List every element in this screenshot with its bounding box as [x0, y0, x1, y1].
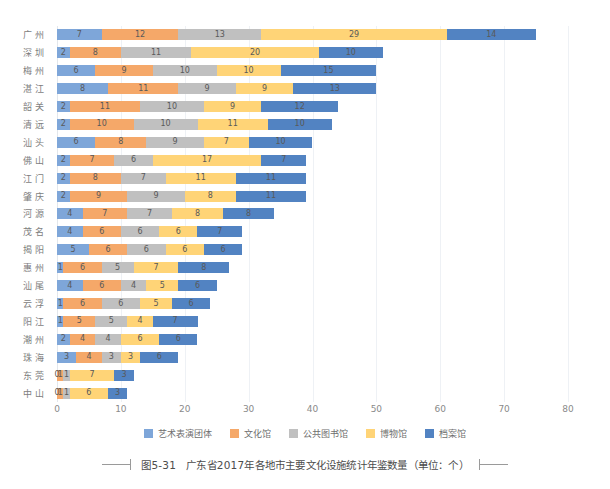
legend-item[interactable]: 文化馆 [230, 427, 271, 440]
bar-value-label: 7 [141, 174, 146, 182]
bar-value-label: 6 [137, 228, 142, 236]
bar-value-label: 10 [244, 67, 254, 75]
bar-segment: 4 [57, 226, 83, 237]
stacked-bar: 01163 [57, 388, 127, 399]
bar-segment: 10 [268, 119, 332, 130]
bar-row: 21110912 [57, 98, 568, 116]
bar-value-label: 7 [102, 210, 107, 218]
bar-segment: 10 [140, 101, 204, 112]
bar-segment: 1 [63, 370, 69, 381]
bar-value-label: 9 [122, 67, 127, 75]
x-axis-tick-label: 50 [371, 404, 382, 414]
bar-value-label: 4 [67, 228, 72, 236]
bar-segment: 8 [95, 137, 146, 148]
stacked-bar: 689710 [57, 137, 312, 148]
bar-value-label: 3 [121, 371, 126, 379]
bar-segment: 3 [114, 370, 133, 381]
bar-segment: 6 [204, 244, 242, 255]
bar-value-label: 12 [135, 31, 145, 39]
bar-segment: 10 [249, 137, 313, 148]
legend-label: 文化馆 [244, 427, 271, 440]
bar-value-label: 6 [74, 67, 79, 75]
bar-segment: 5 [146, 280, 178, 291]
bar-segment: 6 [127, 244, 165, 255]
stacked-bar: 16656 [57, 298, 210, 309]
bar-row: 46456 [57, 277, 568, 295]
bar-value-label: 6 [106, 246, 111, 254]
bar-value-label: 6 [131, 156, 136, 164]
bar-value-label: 10 [275, 138, 285, 146]
bar-segment: 7 [70, 155, 115, 166]
bar-segment: 9 [127, 191, 184, 202]
legend-item[interactable]: 博物馆 [366, 427, 407, 440]
bar-value-label: 7 [153, 264, 158, 272]
bar-value-label: 7 [90, 371, 95, 379]
bar-segment: 6 [63, 262, 101, 273]
bar-value-label: 4 [67, 282, 72, 290]
x-axis-tick-label: 70 [498, 404, 509, 414]
bar-value-label: 7 [224, 138, 229, 146]
bar-value-label: 9 [96, 192, 101, 200]
stacked-bar: 46456 [57, 280, 217, 291]
bar-value-label: 4 [131, 282, 136, 290]
bar-value-label: 6 [176, 335, 181, 343]
bar-value-label: 1 [58, 389, 63, 397]
legend-item[interactable]: 档案馆 [425, 427, 466, 440]
bar-segment: 29 [261, 29, 446, 40]
bar-segment: 7 [121, 173, 166, 184]
bar-value-label: 8 [80, 85, 85, 93]
bar-segment: 7 [261, 155, 306, 166]
bar-value-label: 29 [349, 31, 359, 39]
bar-segment: 11 [70, 101, 140, 112]
bar-segment: 2 [57, 155, 70, 166]
y-axis-label: 湛江 [23, 80, 44, 98]
bar-row: 15547 [57, 312, 568, 330]
y-axis-label: 韶关 [23, 98, 44, 116]
caption-row: 图5-31 广东省2017年各地市主要文化设施统计年鉴数量（单位：个） [0, 452, 610, 476]
stacked-bar: 16578 [57, 262, 229, 273]
bar-value-label: 4 [137, 317, 142, 325]
bar-value-label: 6 [220, 246, 225, 254]
bar-segment: 13 [293, 83, 376, 94]
legend-item[interactable]: 艺术表演团体 [144, 427, 212, 440]
x-axis-tick-label: 30 [243, 404, 254, 414]
bar-value-label: 10 [180, 67, 190, 75]
bar-segment: 11 [198, 119, 268, 130]
bar-segment: 7 [127, 208, 172, 219]
bar-segment: 6 [121, 334, 159, 345]
bar-segment: 9 [146, 137, 203, 148]
bar-segment: 8 [70, 173, 121, 184]
bar-value-label: 7 [90, 156, 95, 164]
bar-segment: 11 [108, 83, 178, 94]
bar-segment: 10 [217, 65, 281, 76]
bar-value-label: 5 [153, 300, 158, 308]
bar-segment: 6 [159, 334, 197, 345]
bar-segment: 9 [178, 83, 235, 94]
bar-segment: 6 [166, 244, 204, 255]
bar-value-label: 2 [61, 192, 66, 200]
bar-segment: 10 [319, 47, 383, 58]
bar-value-label: 8 [93, 174, 98, 182]
y-axis-label: 佛山 [23, 151, 44, 169]
stacked-bar: 276177 [57, 155, 306, 166]
y-axis-label: 深圳 [23, 44, 44, 62]
x-axis-tick-label: 60 [435, 404, 446, 414]
bar-segment: 20 [191, 47, 319, 58]
bar-segment: 12 [102, 29, 179, 40]
stacked-bar: 34336 [57, 352, 178, 363]
bar-segment: 11 [236, 173, 306, 184]
bar-row: 01163 [57, 384, 568, 402]
bar-value-label: 6 [144, 246, 149, 254]
bar-value-label: 6 [157, 353, 162, 361]
bar-segment: 3 [57, 352, 76, 363]
chart-legend: 艺术表演团体文化馆公共图书馆博物馆档案馆 [0, 424, 610, 442]
bar-segment: 4 [70, 334, 96, 345]
bar-value-label: 3 [64, 353, 69, 361]
legend-swatch-icon [425, 429, 434, 438]
bar-value-label: 9 [205, 85, 210, 93]
bar-value-label: 20 [250, 49, 260, 57]
bar-segment: 2 [57, 101, 70, 112]
legend-item[interactable]: 公共图书馆 [289, 427, 348, 440]
stacked-bar: 01173 [57, 370, 134, 381]
bar-value-label: 6 [118, 300, 123, 308]
